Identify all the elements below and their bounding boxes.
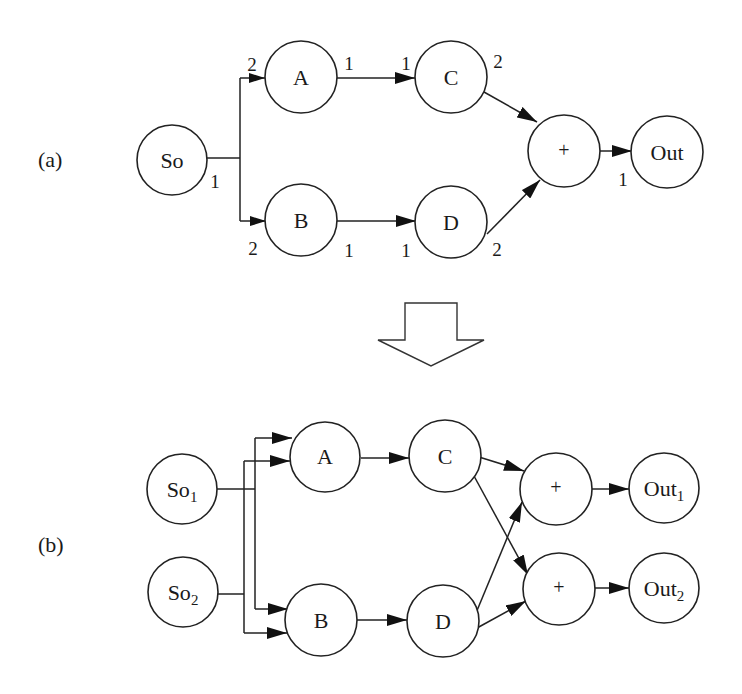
panel-a: (a) So A B C [38,41,703,261]
node-c-label: C [444,65,459,90]
node-plus1-label: + [550,476,561,498]
edge-d-to-plus2 [477,601,526,628]
node-plus2: + [523,553,595,625]
panel-label-a: (a) [38,147,62,172]
edge-c-to-plus1 [479,457,524,471]
node-a: A [265,41,337,113]
node-b: B [285,584,357,656]
node-so-label: So [160,148,183,173]
node-out1: Out1 [629,453,699,523]
rate-b-out: 1 [344,240,354,261]
node-plus2-label: + [553,576,564,598]
node-d-label: D [435,609,451,634]
node-plus1: + [520,453,592,525]
node-c: C [415,41,487,113]
edge-d-to-plus1 [476,502,522,613]
node-out: Out [631,116,703,188]
node-b-label: B [294,208,309,233]
transform-arrow [378,303,484,366]
node-so1: So1 [147,454,217,524]
rate-c-out: 2 [493,51,503,72]
node-c: C [409,420,481,492]
edge-d-to-plus [487,180,540,234]
rate-b-in: 2 [248,238,258,259]
edge-c-to-plus [484,92,537,122]
node-d: D [407,585,479,657]
rate-d-in: 1 [401,240,411,261]
rate-d-out: 2 [492,239,502,260]
rate-a-in: 2 [247,54,257,75]
node-so2: So2 [148,557,218,627]
node-b-label: B [314,608,329,633]
node-so: So [137,125,207,195]
node-d-label: D [443,210,459,235]
rate-so-out: 1 [210,171,220,192]
node-plus: + [528,115,600,187]
node-out2: Out2 [629,553,699,623]
panel-label-b: (b) [38,532,64,557]
node-plus-label: + [558,139,569,161]
node-a-label: A [293,65,309,90]
rate-c-in: 1 [401,53,411,74]
hollow-down-arrow-icon [378,303,484,366]
node-a: A [290,422,360,492]
node-out-label: Out [651,140,684,165]
node-b: B [265,184,337,256]
node-d: D [415,186,487,258]
dataflow-diagram: (a) So A B C [0,0,742,694]
rate-a-out: 1 [344,53,354,74]
node-c-label: C [438,444,453,469]
panel-b: (b) So1 [38,420,699,657]
node-a-label: A [317,444,333,469]
rate-out-in: 1 [618,169,628,190]
